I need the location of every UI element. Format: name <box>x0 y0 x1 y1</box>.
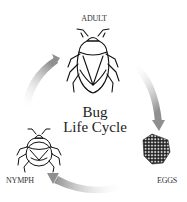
adult-bug-icon <box>67 29 119 93</box>
diagram-title: Bug Life Cycle <box>50 105 140 135</box>
arrow-nymph-to-adult <box>22 54 60 108</box>
arrow-eggs-to-nymph <box>47 173 125 193</box>
life-cycle-diagram <box>0 0 187 202</box>
stage-label-adult: ADULT <box>79 14 109 23</box>
title-line-2: Life Cycle <box>50 120 140 135</box>
egg-cluster-icon <box>143 134 170 164</box>
stage-label-eggs: EGGS <box>157 176 177 185</box>
nymph-bug-icon <box>17 129 61 172</box>
title-line-1: Bug <box>50 105 140 120</box>
stage-label-nymph: NYMPH <box>6 176 34 185</box>
